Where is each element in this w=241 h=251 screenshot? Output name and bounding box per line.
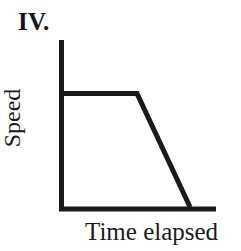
speed-curve [61,94,190,208]
y-axis-title: Speed [0,78,24,158]
speed-time-plot [0,0,241,251]
x-axis-title: Time elapsed [85,217,218,246]
figure-container: IV. Speed Time elapsed [0,0,241,251]
